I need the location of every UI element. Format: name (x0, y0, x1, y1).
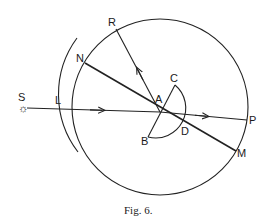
label-p: P (249, 114, 256, 126)
transmitted-ray-arrow (195, 115, 206, 116)
reflected-ray-arrow (138, 70, 143, 80)
figure-diagram: ☼ S L N R A C B D P M Fig. 6. (0, 0, 271, 222)
source-star-icon: ☼ (18, 102, 28, 114)
label-d: D (181, 125, 189, 137)
label-n: N (76, 52, 84, 64)
label-m: M (237, 147, 246, 159)
label-s: S (18, 91, 25, 103)
figure-caption: Fig. 6. (124, 204, 153, 216)
label-a: A (155, 93, 163, 105)
label-c: C (170, 72, 178, 84)
label-l: L (55, 94, 61, 106)
label-r: R (108, 16, 116, 28)
label-b: B (141, 135, 148, 147)
